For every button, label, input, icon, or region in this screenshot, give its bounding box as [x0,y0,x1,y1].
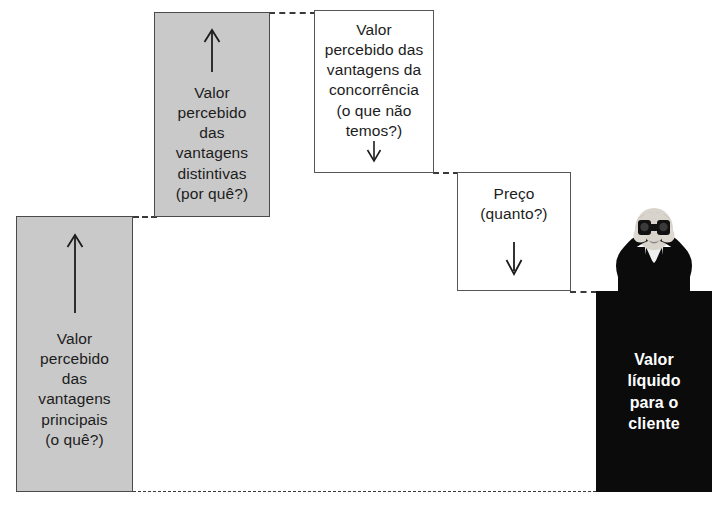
arrow-down-icon [363,141,385,167]
step-box-valor-vantagens-concorrencia: Valor percebido das vantagens da concorr… [314,10,434,173]
step-label-valor-vantagens-distintivas: Valor percebido das vantagens distintiva… [176,83,249,204]
step-label-valor-liquido-cliente: Valor líquido para o cliente [627,349,680,435]
step-box-preco: Preço (quanto?) [457,172,571,291]
arrow-up-icon [64,231,86,317]
connector-4 [570,291,597,293]
connector-baseline [133,491,596,492]
value-ladder-diagram: Valor percebido das vantagens principais… [0,0,716,512]
arrow-down-icon [502,242,526,280]
connector-3 [433,172,459,174]
step-label-valor-vantagens-concorrencia: Valor percebido das vantagens da concorr… [325,20,424,141]
step-label-preco: Preço (quanto?) [480,184,547,224]
arrow-up-icon [201,26,223,76]
step-box-valor-liquido-cliente: Valor líquido para o cliente [596,291,712,492]
connector-2 [269,12,316,14]
person-with-binoculars-icon [600,207,708,293]
step-label-valor-vantagens-principais: Valor percebido das vantagens principais… [38,329,110,450]
step-box-valor-vantagens-principais: Valor percebido das vantagens principais… [16,216,133,492]
step-box-valor-vantagens-distintivas: Valor percebido das vantagens distintiva… [154,12,270,217]
